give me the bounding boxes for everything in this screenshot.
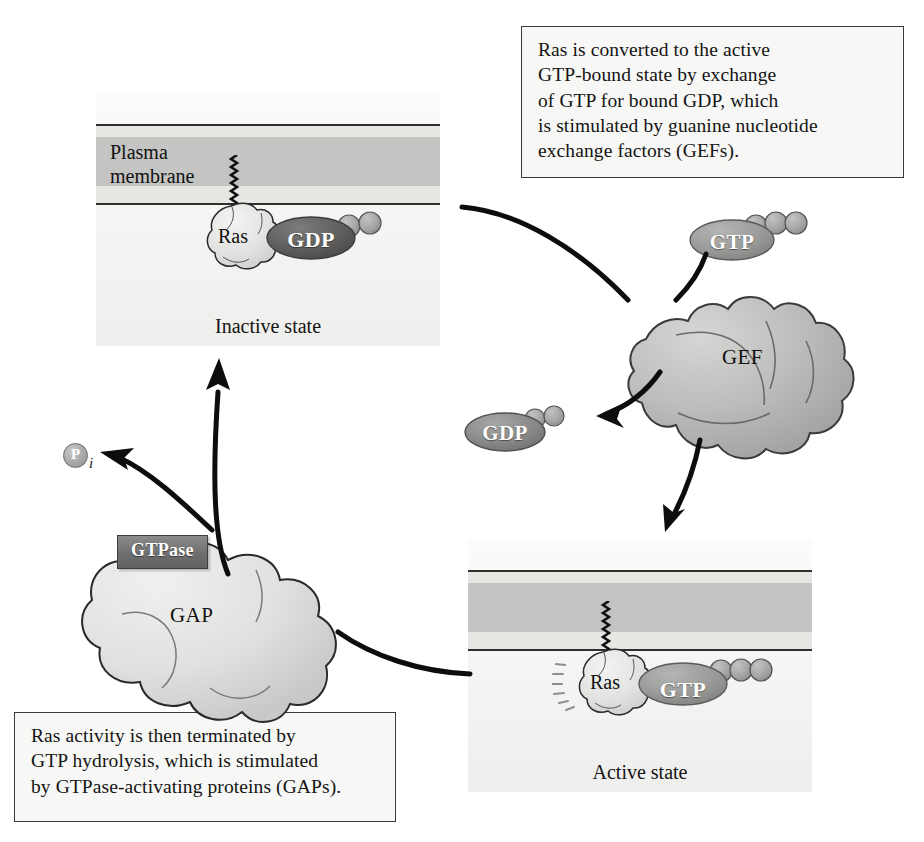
plasma-membrane-label-line-2: membrane (110, 165, 194, 189)
free-gtp-label: GTP (688, 230, 776, 255)
caption-gap-line-1: Ras activity is then terminated by (31, 723, 381, 748)
caption-gap-line-2: GTP hydrolysis, which is stimulated (31, 748, 381, 773)
arrowhead-gef-to-active (663, 504, 685, 532)
gdp-label-inactive: GDP (263, 227, 359, 253)
lipid-anchor-icon (598, 601, 620, 653)
plasma-membrane-label: Plasma membrane (110, 141, 194, 188)
free-gdp-label: GDP (463, 421, 547, 446)
arrowhead-gap-to-phosphate (100, 448, 134, 470)
gef-protein-blob (616, 281, 864, 465)
figure-canvas: Ras is converted to the active GTP-bound… (0, 0, 924, 842)
arrow-active-to-gap (338, 632, 470, 674)
inactive-state-caption: Inactive state (96, 315, 440, 338)
membrane-leaflet-upper (468, 572, 812, 583)
plasma-membrane-label-line-1: Plasma (110, 141, 194, 165)
active-state-caption: Active state (468, 761, 812, 784)
caption-gef-line-2: GTP-bound state by exchange (538, 62, 889, 87)
panel-active-state: Ras GTP Active state (468, 539, 812, 792)
gap-label: GAP (170, 603, 213, 628)
caption-gef-line-3: of GTP for bound GDP, which (538, 88, 889, 113)
membrane-leaflet-upper (96, 126, 440, 137)
caption-gef-line-4: is stimulated by guanine nucleotide (538, 113, 889, 138)
caption-gef: Ras is converted to the active GTP-bound… (521, 26, 904, 178)
caption-gef-line-5: exchange factors (GEFs). (538, 138, 889, 163)
membrane-band (468, 583, 812, 632)
gtpase-label: GTPase (117, 540, 208, 561)
ras-label-active: Ras (590, 671, 620, 694)
lipid-anchor-icon (226, 155, 248, 207)
caption-gef-line-1: Ras is converted to the active (538, 37, 889, 62)
phosphate-subscript: i (89, 455, 93, 472)
ras-label-inactive: Ras (218, 225, 248, 248)
phosphate-letter: P (63, 446, 88, 463)
caption-gap: Ras activity is then terminated by GTP h… (14, 712, 396, 822)
arrowhead-gap-to-inactive (206, 358, 230, 390)
panel-inactive-state: Plasma membrane Ras (96, 93, 440, 346)
caption-gap-line-3: by GTPase-activating proteins (GAPs). (31, 774, 381, 799)
arrow-inactive-to-gef (462, 207, 628, 300)
gef-label: GEF (722, 345, 763, 370)
arrow-gap-to-phosphate (120, 458, 212, 530)
gtp-label-active: GTP (635, 677, 731, 703)
